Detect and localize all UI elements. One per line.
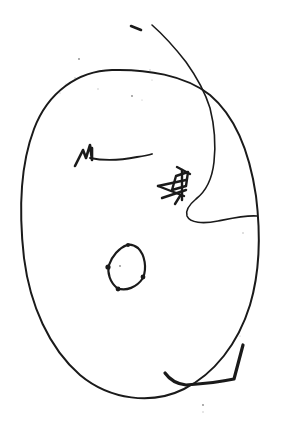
nose-corner-dot-0 <box>105 264 110 269</box>
sketch-canvas: Hand-drawn face sketch <box>0 0 282 425</box>
face-sketch-drawing <box>0 0 282 425</box>
ink-speck-11 <box>202 411 203 412</box>
ink-speck-9 <box>119 265 121 267</box>
ink-speck-8 <box>242 232 244 234</box>
ink-speck-12 <box>239 335 240 336</box>
ink-speck-2 <box>131 95 133 97</box>
ink-speck-6 <box>151 79 152 80</box>
nose-corner-dot-1 <box>116 287 121 292</box>
ink-speck-10 <box>202 404 204 406</box>
ink-speck-13 <box>59 92 60 93</box>
nose-corner-dot-2 <box>141 275 146 280</box>
ink-speck-1 <box>97 88 98 89</box>
nose-corner-dot-3 <box>126 243 130 247</box>
ink-speck-3 <box>141 99 142 100</box>
ink-speck-5 <box>149 69 150 70</box>
ink-speck-0 <box>78 58 80 60</box>
